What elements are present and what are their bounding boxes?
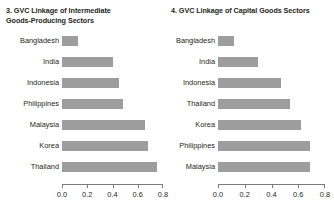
x-axis-tick	[324, 185, 325, 188]
bar-row: Indonesia	[0, 77, 167, 88]
category-label-korea: Korea	[195, 119, 215, 130]
category-label-korea: Korea	[39, 140, 59, 151]
category-label-thailand: Thailand	[31, 161, 59, 172]
x-axis-tick-label: 0.6	[287, 190, 309, 199]
x-axis-tick	[113, 185, 114, 188]
category-label-philippines: Philippines	[179, 140, 215, 151]
figure-container: 3. GVC Linkage of Intermediate Goods-Pro…	[0, 0, 334, 212]
bar-row: India	[167, 56, 334, 67]
chart-panel-3: 3. GVC Linkage of Intermediate Goods-Pro…	[0, 0, 167, 212]
x-axis-tick	[218, 185, 219, 188]
bar-row: Thailand	[167, 98, 334, 109]
x-axis-tick-label: 0.4	[102, 190, 124, 199]
category-label-bangladesh: Bangladesh	[176, 35, 215, 46]
category-label-india: India	[43, 56, 59, 67]
bar-row: Philippines	[167, 140, 334, 151]
category-label-indonesia: Indonesia	[27, 77, 59, 88]
bar-indonesia	[218, 78, 281, 88]
x-axis-tick	[62, 185, 63, 188]
bar-indonesia	[62, 78, 119, 88]
bar-india	[218, 57, 258, 67]
bar-bangladesh	[62, 36, 78, 46]
category-label-malaysia: Malaysia	[30, 119, 59, 130]
x-axis-tick-label: 0.2	[234, 190, 256, 199]
bar-row: Bangladesh	[0, 35, 167, 46]
category-label-bangladesh: Bangladesh	[20, 35, 59, 46]
x-axis-tick	[162, 185, 163, 188]
panel-4-plot-area: BangladeshIndiaIndonesiaThailandKoreaPhi…	[167, 0, 334, 212]
x-axis-tick	[87, 185, 88, 188]
bar-thailand	[218, 99, 290, 109]
bar-row: India	[0, 56, 167, 67]
category-label-philippines: Philippines	[23, 98, 59, 109]
bar-row: Thailand	[0, 161, 167, 172]
chart-panel-4: 4. GVC Linkage of Capital Goods Sectors …	[167, 0, 334, 212]
x-axis-tick-label: 0.4	[261, 190, 283, 199]
category-label-indonesia: Indonesia	[183, 77, 215, 88]
bar-philippines	[218, 141, 310, 151]
x-axis-tick-label: 0.2	[76, 190, 98, 199]
category-label-malaysia: Malaysia	[186, 161, 215, 172]
bar-malaysia	[218, 162, 310, 172]
x-axis-tick-label: 0.0	[207, 190, 229, 199]
bar-bangladesh	[218, 36, 234, 46]
bar-row: Bangladesh	[167, 35, 334, 46]
x-axis-tick	[138, 185, 139, 188]
bar-row: Indonesia	[167, 77, 334, 88]
bar-row: Malaysia	[0, 119, 167, 130]
x-axis-tick-label: 0.8	[314, 190, 334, 199]
bar-row: Korea	[0, 140, 167, 151]
bar-malaysia	[62, 120, 145, 130]
x-axis-tick	[245, 185, 246, 188]
category-label-thailand: Thailand	[187, 98, 215, 109]
x-axis-tick-label: 0.6	[127, 190, 149, 199]
panel-3-plot-area: BangladeshIndiaIndonesiaPhilippinesMalay…	[0, 0, 167, 212]
bar-row: Korea	[167, 119, 334, 130]
bar-india	[62, 57, 113, 67]
x-axis-tick	[272, 185, 273, 188]
bar-row: Philippines	[0, 98, 167, 109]
bar-korea	[62, 141, 148, 151]
bar-thailand	[62, 162, 157, 172]
bar-row: Malaysia	[167, 161, 334, 172]
bar-korea	[218, 120, 301, 130]
x-axis-tick-label: 0.0	[51, 190, 73, 199]
x-axis-tick	[298, 185, 299, 188]
bar-philippines	[62, 99, 123, 109]
category-label-india: India	[199, 56, 215, 67]
